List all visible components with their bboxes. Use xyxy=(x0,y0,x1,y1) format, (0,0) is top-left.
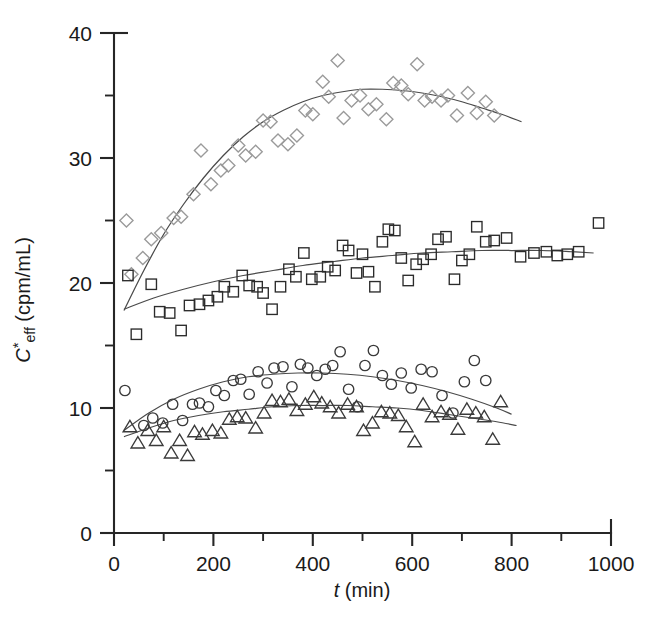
marker-circle xyxy=(244,389,254,399)
marker-diamond xyxy=(337,111,350,124)
marker-diamond xyxy=(222,159,235,172)
marker-triangle xyxy=(188,425,202,436)
marker-triangle xyxy=(265,394,279,405)
svg-text:t (min): t (min) xyxy=(334,579,391,601)
marker-square xyxy=(562,249,572,259)
marker-triangle xyxy=(173,434,187,445)
marker-diamond xyxy=(370,98,383,111)
marker-square xyxy=(501,233,511,243)
marker-diamond xyxy=(290,129,303,142)
marker-square xyxy=(441,232,451,242)
marker-square xyxy=(275,282,285,292)
marker-triangle xyxy=(214,427,228,438)
marker-square xyxy=(176,325,186,335)
marker-square xyxy=(155,307,165,317)
marker-diamond xyxy=(316,75,329,88)
marker-square xyxy=(146,279,156,289)
x-tick-label: 0 xyxy=(108,552,120,575)
marker-triangle xyxy=(131,437,145,448)
marker-circle xyxy=(167,399,177,409)
marker-diamond xyxy=(450,109,463,122)
marker-diamond xyxy=(479,95,492,108)
marker-triangle xyxy=(408,435,422,446)
marker-square xyxy=(377,237,387,247)
marker-diamond xyxy=(120,214,133,227)
marker-diamond xyxy=(461,86,474,99)
data-markers-group xyxy=(120,54,604,461)
marker-square xyxy=(284,264,294,274)
x-tick-label: 400 xyxy=(295,552,330,575)
y-tick-label: 10 xyxy=(69,397,92,420)
marker-diamond xyxy=(411,58,424,71)
marker-square xyxy=(184,300,194,310)
marker-circle xyxy=(377,370,387,380)
marker-square xyxy=(351,268,361,278)
marker-diamond xyxy=(353,89,366,102)
ticks-group xyxy=(100,33,611,546)
marker-square xyxy=(131,329,141,339)
marker-circle xyxy=(427,367,437,377)
marker-square xyxy=(363,267,373,277)
marker-square xyxy=(529,248,539,258)
marker-diamond xyxy=(345,94,358,107)
marker-diamond xyxy=(322,90,335,103)
marker-square xyxy=(541,247,551,257)
marker-circle xyxy=(187,399,197,409)
svg-text:C*eff (cpm/mL): C*eff (cpm/mL) xyxy=(9,237,38,363)
y-title-subscript: eff xyxy=(22,327,38,342)
y-tick-label: 40 xyxy=(69,22,92,45)
marker-square xyxy=(258,288,268,298)
marker-square xyxy=(370,282,380,292)
marker-circle xyxy=(177,415,187,425)
marker-triangle xyxy=(391,409,405,420)
series-circle xyxy=(120,345,491,430)
marker-triangle xyxy=(299,398,313,409)
marker-square xyxy=(433,234,443,244)
marker-square xyxy=(330,265,340,275)
y-tick-label: 20 xyxy=(69,272,92,295)
fit-curves-group xyxy=(124,89,594,437)
marker-square xyxy=(472,222,482,232)
marker-square xyxy=(291,272,301,282)
figure-container: 02004006008001000010203040 t (min) C*eff… xyxy=(0,0,650,629)
marker-diamond xyxy=(204,178,217,191)
marker-circle xyxy=(120,385,130,395)
marker-square xyxy=(164,308,174,318)
marker-circle xyxy=(396,368,406,378)
x-tick-label: 600 xyxy=(395,552,430,575)
marker-circle xyxy=(368,345,378,355)
x-tick-label: 1000 xyxy=(588,552,635,575)
x-axis-title: t (min) xyxy=(334,579,391,601)
marker-square xyxy=(593,218,603,228)
marker-diamond xyxy=(331,54,344,67)
marker-square xyxy=(403,275,413,285)
marker-circle xyxy=(481,375,491,385)
scatter-plot: 02004006008001000010203040 t (min) C*eff… xyxy=(0,0,650,629)
marker-triangle xyxy=(451,423,465,434)
y-axis-title: C*eff (cpm/mL) xyxy=(9,237,38,363)
x-tick-label: 800 xyxy=(494,552,529,575)
marker-triangle xyxy=(230,410,244,421)
marker-circle xyxy=(343,384,353,394)
y-tick-label: 0 xyxy=(80,522,92,545)
marker-triangle xyxy=(486,433,500,444)
fit-curve-diamond xyxy=(124,89,522,310)
marker-circle xyxy=(148,413,158,423)
y-tick-label: 30 xyxy=(69,147,92,170)
marker-circle xyxy=(287,382,297,392)
marker-diamond xyxy=(362,103,375,116)
marker-triangle xyxy=(399,420,413,431)
marker-triangle xyxy=(494,395,508,406)
marker-triangle xyxy=(416,398,430,409)
marker-square xyxy=(267,304,277,314)
y-title-units: (cpm/mL) xyxy=(12,237,34,327)
marker-circle xyxy=(406,383,416,393)
marker-triangle xyxy=(181,449,195,460)
marker-circle xyxy=(360,360,370,370)
series-square xyxy=(123,218,604,340)
marker-circle xyxy=(219,390,229,400)
marker-circle xyxy=(335,347,345,357)
marker-circle xyxy=(469,355,479,365)
marker-circle xyxy=(262,378,272,388)
x-tick-label: 200 xyxy=(196,552,231,575)
